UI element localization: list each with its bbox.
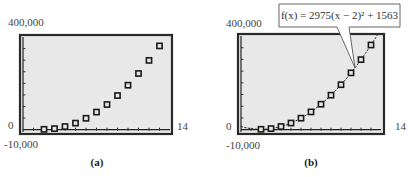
data-point <box>115 93 120 98</box>
chart-panel-b <box>238 4 400 134</box>
data-point <box>83 116 88 121</box>
data-point <box>52 126 57 131</box>
y-min-label: -10,000 <box>226 139 260 151</box>
data-point <box>136 71 141 76</box>
data-point <box>318 102 323 107</box>
plot-frame <box>20 35 172 134</box>
data-point <box>125 83 130 88</box>
data-point <box>73 121 78 126</box>
panel-caption: (a) <box>91 156 104 169</box>
data-point <box>358 57 363 62</box>
data-point <box>338 82 343 87</box>
panel-caption: (b) <box>304 156 318 169</box>
chart-panel-a <box>20 35 172 134</box>
plot-frame <box>238 34 384 134</box>
x-max-label: 14 <box>395 120 407 132</box>
data-point <box>368 42 373 47</box>
data-point <box>94 109 99 114</box>
data-point <box>268 126 273 131</box>
data-point <box>157 43 162 48</box>
data-point <box>328 93 333 98</box>
data-point <box>298 116 303 121</box>
equation-label: f(x) = 2975(x − 2)² + 1563 <box>281 9 399 22</box>
y-zero-label: 0 <box>226 120 232 132</box>
figure: 400,0000-10,00014(a)400,0000-10,00014(b)… <box>0 0 412 177</box>
data-point <box>278 124 283 129</box>
data-point <box>348 70 353 75</box>
x-max-label: 14 <box>177 120 189 132</box>
data-point <box>104 102 109 107</box>
y-zero-label: 0 <box>8 119 14 131</box>
data-point <box>308 109 313 114</box>
data-point <box>258 127 263 132</box>
y-max-label: 400,000 <box>226 17 262 29</box>
y-max-label: 400,000 <box>8 16 44 28</box>
data-point <box>146 58 151 63</box>
data-point <box>62 124 67 129</box>
y-min-label: -10,000 <box>4 138 38 150</box>
data-point <box>41 127 46 132</box>
data-point <box>288 120 293 125</box>
